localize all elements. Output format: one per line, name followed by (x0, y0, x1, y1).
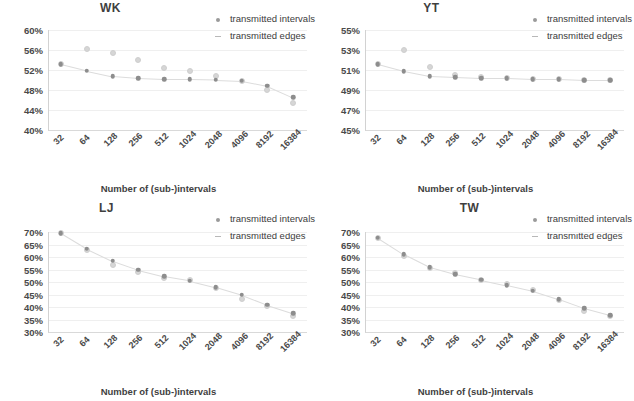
x-axis-tick-label: 64 (394, 334, 408, 348)
x-axis-tick-label: 512 (470, 333, 488, 351)
data-point-intervals (376, 235, 381, 240)
plot-wrap: 30%35%40%45%50%55%60%65%70%3264128256512… (317, 200, 634, 400)
data-point-edges (84, 46, 90, 52)
gridline (49, 30, 307, 31)
y-axis-tick-label: 70% (24, 227, 43, 238)
y-axis-tick-label: 40% (24, 125, 43, 136)
y-axis-tick-label: 51% (341, 65, 360, 76)
x-axis-tick-label: 512 (470, 131, 488, 149)
x-axis-tick-label: 2048 (203, 129, 224, 150)
x-axis-tick-label: 256 (444, 131, 462, 149)
data-point-intervals (188, 278, 193, 283)
x-axis-tick-label: 8192 (254, 129, 275, 150)
x-axis-tick-label: 256 (127, 131, 145, 149)
data-point-edges (401, 47, 407, 53)
chart-panel-tw: TW transmitted intervals transmitted edg… (317, 200, 634, 401)
y-axis-tick-label: 45% (341, 125, 360, 136)
gridline (366, 295, 624, 296)
data-point-edges (290, 100, 296, 106)
x-axis-tick-label: 32 (51, 334, 65, 348)
y-axis-tick-label: 47% (341, 105, 360, 116)
data-point-intervals (162, 274, 167, 279)
y-axis-tick-label: 45% (24, 289, 43, 300)
y-axis-tick-label: 40% (341, 302, 360, 313)
y-axis-tick-label: 45% (341, 289, 360, 300)
gridline (49, 282, 307, 283)
data-point-intervals (213, 285, 218, 290)
y-axis-tick-label: 49% (341, 85, 360, 96)
x-axis-tick-label: 1024 (494, 331, 515, 352)
data-point-intervals (84, 68, 89, 73)
data-point-intervals (110, 259, 115, 264)
y-axis-tick-label: 65% (24, 239, 43, 250)
x-axis-tick-label: 32 (368, 334, 382, 348)
x-axis-tick-label: 128 (101, 131, 119, 149)
x-axis-tick-label: 128 (101, 333, 119, 351)
data-point-intervals (84, 246, 89, 251)
data-point-intervals (59, 231, 64, 236)
y-axis-tick-label: 60% (341, 252, 360, 263)
x-axis-tick-label: 1024 (177, 129, 198, 150)
data-point-intervals (59, 62, 64, 67)
y-axis-tick-label: 65% (341, 239, 360, 250)
y-axis-tick-label: 55% (341, 264, 360, 275)
x-axis-tick-label: 1024 (177, 331, 198, 352)
data-point-edges (161, 65, 167, 71)
gridline (49, 232, 307, 233)
x-axis-tick-label: 1024 (494, 129, 515, 150)
data-point-edges (110, 50, 116, 56)
data-point-intervals (401, 69, 406, 74)
x-axis-tick-label: 8192 (571, 331, 592, 352)
x-axis-tick-label: 32 (51, 132, 65, 146)
y-axis-tick-label: 30% (24, 327, 43, 338)
gridline (366, 30, 624, 31)
gridline (366, 90, 624, 91)
data-point-intervals (556, 77, 561, 82)
data-point-intervals (239, 293, 244, 298)
x-axis-tick-label: 64 (77, 132, 91, 146)
x-axis-tick-label: 64 (77, 334, 91, 348)
x-axis-tick-label: 4096 (545, 129, 566, 150)
data-point-intervals (291, 95, 296, 100)
data-point-intervals (505, 283, 510, 288)
chart-panel-yt: YT transmitted intervals transmitted edg… (317, 0, 634, 200)
y-axis-tick-label: 40% (24, 302, 43, 313)
x-axis-tick-label: 128 (418, 333, 436, 351)
data-point-intervals (479, 277, 484, 282)
x-axis-title: Number of (sub-)intervals (317, 386, 634, 397)
y-axis-tick-label: 35% (341, 314, 360, 325)
data-point-intervals (556, 297, 561, 302)
data-point-intervals (291, 311, 296, 316)
chart-grid: WK transmitted intervals transmitted edg… (0, 0, 634, 401)
x-axis-tick-label: 2048 (520, 129, 541, 150)
x-axis-tick-label: 64 (394, 132, 408, 146)
y-axis-tick-label: 60% (24, 25, 43, 36)
x-axis-tick-label: 8192 (571, 129, 592, 150)
x-axis-tick-label: 256 (127, 333, 145, 351)
gridline (366, 320, 624, 321)
y-axis-labels: 45%47%49%51%53%55% (317, 0, 360, 200)
data-point-intervals (162, 77, 167, 82)
data-point-intervals (188, 77, 193, 82)
data-point-intervals (376, 62, 381, 67)
y-axis-tick-label: 44% (24, 105, 43, 116)
x-axis-title: Number of (sub-)intervals (317, 183, 634, 194)
x-axis-tick-label: 128 (418, 131, 436, 149)
data-point-intervals (401, 252, 406, 257)
gridline (366, 270, 624, 271)
gridline (49, 257, 307, 258)
data-point-intervals (265, 83, 270, 88)
x-axis-tick-label: 4096 (228, 331, 249, 352)
data-point-intervals (213, 77, 218, 82)
x-axis-title: Number of (sub-)intervals (0, 183, 317, 194)
gridline (366, 245, 624, 246)
y-axis-tick-label: 56% (24, 45, 43, 56)
data-point-intervals (582, 78, 587, 83)
x-axis-tick-label: 512 (153, 333, 171, 351)
series-connector (164, 79, 190, 80)
y-axis-tick-label: 55% (341, 25, 360, 36)
data-point-intervals (453, 75, 458, 80)
gridline (49, 270, 307, 271)
x-axis-tick-label: 4096 (228, 129, 249, 150)
data-point-intervals (582, 306, 587, 311)
